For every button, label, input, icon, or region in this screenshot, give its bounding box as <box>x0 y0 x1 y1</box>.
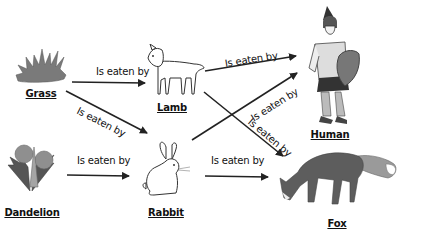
dandelion-icon <box>4 143 60 193</box>
edge-label-rabbit-fox: Is eaten by <box>211 155 264 166</box>
node-label-fox: Fox <box>327 218 346 229</box>
node-label-dandelion: Dandelion <box>4 207 59 218</box>
arrow-grass-lamb <box>72 82 145 83</box>
food-web-diagram: Is eaten by Is eaten by Is eaten by Is e… <box>0 0 424 234</box>
node-label-lamb: Lamb <box>157 102 187 113</box>
human-icon <box>305 4 361 126</box>
node-label-rabbit: Rabbit <box>148 207 184 218</box>
edge-label-dandelion-rabbit: Is eaten by <box>77 155 130 166</box>
arrow-rabbit-fox <box>205 176 268 177</box>
fox-icon <box>278 148 398 208</box>
rabbit-icon <box>142 141 192 197</box>
node-label-human: Human <box>311 129 350 140</box>
arrow-dandelion-rabbit <box>67 175 129 176</box>
lamb-icon <box>144 44 206 98</box>
edge-label-grass-lamb: Is eaten by <box>96 66 149 77</box>
grass-icon <box>14 47 68 85</box>
node-label-grass: Grass <box>26 88 57 99</box>
